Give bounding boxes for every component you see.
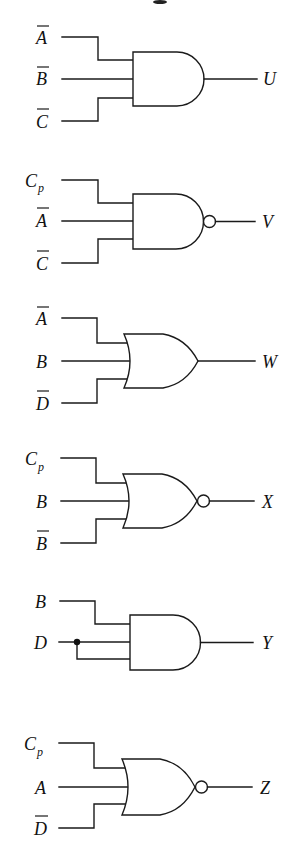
gate-u-and: A B C U [35, 26, 277, 132]
wire-z-in3 [59, 804, 126, 828]
input-label-a: A [34, 778, 47, 798]
output-label-v: V [262, 212, 275, 232]
gate-y-and: B D Y [33, 592, 274, 670]
input-label-b-bar: B [36, 69, 47, 89]
logic-gate-diagram: A B C U C p A C V A B D W [0, 0, 290, 861]
input-label-cp-subscript: p [37, 460, 44, 474]
or-gate-symbol [124, 334, 198, 388]
input-label-cp-subscript: p [36, 745, 43, 759]
wire-z-in1 [59, 743, 126, 768]
input-label-b: B [36, 352, 47, 372]
input-label-d: D [33, 633, 47, 653]
gate-x-nor: C p B B X [25, 449, 274, 554]
output-label-z: Z [260, 778, 271, 798]
and-gate-symbol [133, 52, 204, 106]
input-label-d-bar: D [33, 819, 47, 839]
input-label-a-bar: A [35, 309, 48, 329]
cropped-heading-fragment [153, 0, 167, 4]
wire-v-in1 [62, 180, 133, 203]
wire-x-in1 [61, 458, 127, 483]
input-label-c-bar: C [36, 254, 49, 274]
input-label-c-bar: C [36, 112, 49, 132]
nor-gate-symbol [123, 474, 197, 528]
wire-y-in2-branch [77, 642, 130, 659]
input-label-d-bar: D [35, 394, 49, 414]
wire-w-in3 [62, 379, 128, 403]
gate-z-nor: C p A D Z [24, 734, 271, 839]
output-label-w: W [262, 352, 279, 372]
nand-gate-symbol [133, 194, 203, 249]
nor-gate-symbol [122, 759, 195, 815]
junction-dot [74, 639, 80, 645]
inversion-bubble [204, 216, 216, 228]
input-label-a-bar: A [35, 211, 48, 231]
input-label-cp: C [24, 734, 37, 754]
wire-v-in3 [62, 239, 133, 263]
wire-y-in1 [60, 601, 130, 624]
input-label-cp: C [25, 449, 38, 469]
inversion-bubble [198, 495, 210, 507]
wire-u-in1 [62, 37, 133, 60]
input-label-b: B [35, 592, 46, 612]
wire-w-in1 [62, 318, 128, 343]
gate-w-or: A B D W [35, 307, 279, 414]
wire-u-in3 [62, 98, 133, 121]
input-label-cp: C [25, 171, 38, 191]
input-label-a-bar: A [35, 28, 48, 48]
output-label-u: U [263, 69, 277, 89]
input-label-b-bar: B [36, 534, 47, 554]
input-label-b: B [36, 492, 47, 512]
gate-v-nand: C p A C V [25, 171, 275, 274]
input-label-cp-subscript: p [37, 181, 44, 195]
inversion-bubble [196, 781, 208, 793]
and-gate-symbol [130, 615, 201, 670]
output-label-x: X [261, 492, 274, 512]
wire-x-in3 [61, 519, 127, 543]
output-label-y: Y [262, 633, 274, 653]
